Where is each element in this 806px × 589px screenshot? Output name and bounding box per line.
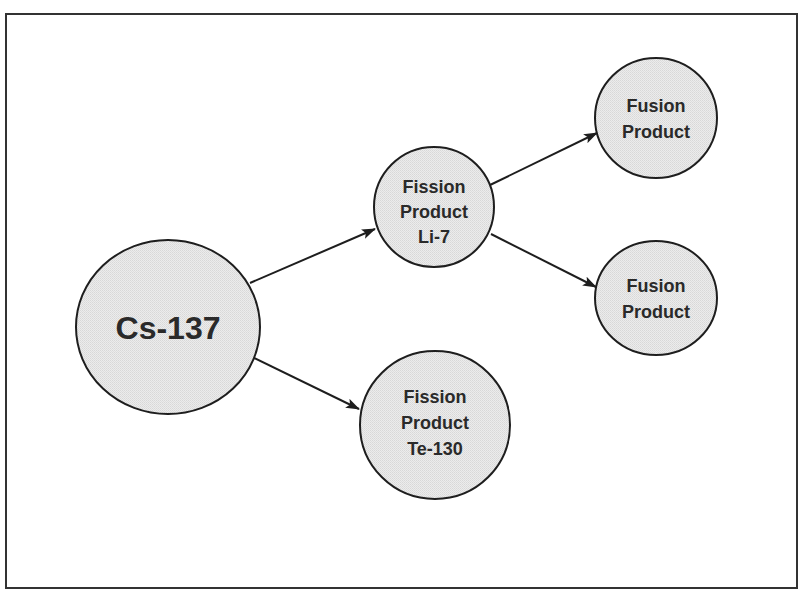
node-cs137: Cs-137 — [76, 240, 260, 414]
node-fusion-bottom-circle — [595, 241, 717, 355]
node-fusion-top-label-line2: Product — [622, 122, 690, 142]
node-cs137-label: Cs-137 — [116, 310, 221, 346]
diagram-canvas: Cs-137 Fission Product Li-7 Fission Prod… — [0, 0, 806, 589]
node-li7-label-line1: Fission — [402, 177, 465, 197]
node-te130-label-line2: Product — [401, 413, 469, 433]
node-li7-label-line3: Li-7 — [418, 227, 450, 247]
node-te130-label-line1: Fission — [403, 387, 466, 407]
node-fusion-bottom: Fusion Product — [595, 241, 717, 355]
node-te130: Fission Product Te-130 — [360, 351, 510, 499]
node-fusion-top-label-line1: Fusion — [627, 96, 686, 116]
node-te130-label-line3: Te-130 — [407, 439, 463, 459]
node-li7: Fission Product Li-7 — [374, 147, 494, 267]
node-fusion-top: Fusion Product — [595, 58, 717, 178]
node-fusion-bottom-label-line1: Fusion — [627, 276, 686, 296]
node-fusion-top-circle — [595, 58, 717, 178]
node-fusion-bottom-label-line2: Product — [622, 302, 690, 322]
node-li7-label-line2: Product — [400, 202, 468, 222]
